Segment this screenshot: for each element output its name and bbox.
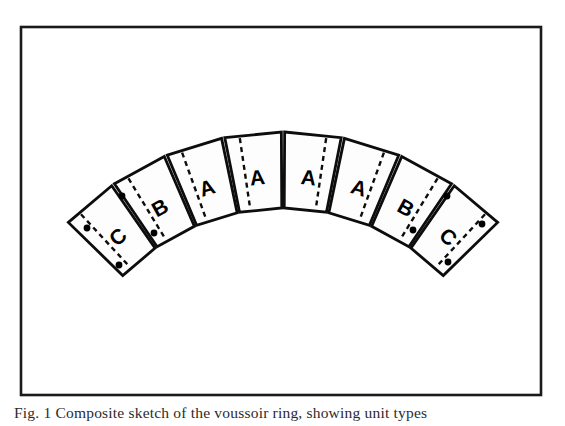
anchor-dot-4 bbox=[410, 227, 417, 234]
caption-clip: Fig. 1 Composite sketch of the voussoir … bbox=[0, 405, 565, 426]
anchor-dot-5 bbox=[444, 193, 451, 200]
anchor-dot-2 bbox=[116, 262, 123, 269]
block-label-3: A bbox=[249, 165, 266, 189]
arch-figure-svg: CBAAAABC bbox=[0, 0, 565, 426]
figure-caption: Fig. 1 Composite sketch of the voussoir … bbox=[14, 405, 427, 422]
block-label-4: A bbox=[300, 165, 317, 189]
anchor-dot-0 bbox=[84, 225, 91, 232]
anchor-dot-6 bbox=[445, 259, 452, 266]
figure-root: CBAAAABC Fig. 1 Composite sketch of the … bbox=[0, 0, 565, 426]
anchor-dot-7 bbox=[479, 221, 486, 228]
anchor-dot-3 bbox=[151, 230, 158, 237]
anchor-dot-1 bbox=[119, 193, 126, 200]
